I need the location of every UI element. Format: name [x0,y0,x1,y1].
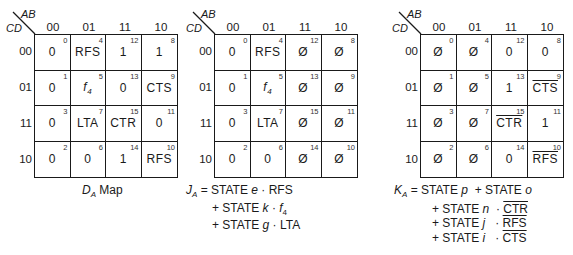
cell-value-negated: CTS [533,81,559,95]
eq-signal-negated: RFS [503,216,527,230]
cell-value: 0 [49,116,56,130]
col-header-11: 11 [287,21,323,33]
cell-index: 15 [130,107,138,116]
col-header-10: 10 [529,21,565,33]
kmap-cell: 10RFS [528,142,564,178]
kmap-corner: AB CD [0,0,40,36]
cell-index: 5 [279,72,283,81]
eq-prefix: + STATE [432,202,479,216]
caption-tail: Map [99,183,122,197]
cell-index: 5 [485,72,489,81]
col-header-01: 01 [71,21,107,33]
eq-dot: · [272,201,276,215]
kmap-cell: 0Ø [421,35,457,71]
kmap-cell: 2Ø [421,142,457,178]
kmap-cell: 11Ø [322,106,358,142]
kmap-cell: 30 [215,106,251,142]
cell-index: 0 [63,36,67,45]
cell-value-negated: RFS [533,152,559,166]
cell-index: 7 [485,107,489,116]
cell-value: Ø [298,45,308,59]
kmap-cell: 30 [35,106,71,142]
col-header-00: 00 [215,21,251,33]
cell-index: 3 [449,107,453,116]
kmap-cell: 13Ø [286,71,322,107]
cell-index: 14 [310,143,318,152]
cell-value: f4 [263,80,272,96]
kmap-ka: AB CD 00 01 11 10 00 01 11 10 0Ø 4Ø 120 … [386,0,573,255]
cell-value: 1 [506,81,513,95]
cell-value: 0 [229,116,236,130]
cell-value: 0 [84,152,91,166]
eq-state: p [461,183,468,197]
cell-index: 2 [243,143,247,152]
eq-state: j [483,216,486,230]
eq-lhs-sub: A [192,190,197,199]
kmap-cell: 121 [106,35,142,71]
col-header-10: 10 [143,21,179,33]
cell-value: f4 [83,80,92,96]
eq-state: i [483,231,486,245]
cell-value-negated: CTR [496,116,522,130]
cell-value: 0 [229,81,236,95]
kmap-cell: 10RFS [142,142,178,178]
cell-value: 0 [229,45,236,59]
kmap-da: AB CD 00 01 11 10 00 01 11 10 00 4RFS 12… [0,0,190,255]
row-header-10: 10 [396,153,418,165]
cell-index: 13 [310,72,318,81]
kmap-grid: 00 4RFS 121 81 10 5f4 130 9CTS 30 7LTA 1… [34,34,178,178]
cell-value: 0 [49,152,56,166]
cell-index: 13 [130,72,138,81]
cell-index: 0 [243,36,247,45]
col-header-00: 00 [421,21,457,33]
row-var-label: CD [186,22,202,34]
eq-lhs: K [394,183,402,197]
cell-index: 3 [63,107,67,116]
cell-index: 4 [485,36,489,45]
row-header-10: 10 [10,153,32,165]
equation-line: KA = STATE p + STATE o [394,183,532,199]
cell-index: 14 [516,143,524,152]
cell-value: 0 [542,45,549,59]
kmap-cell: 1Ø [421,71,457,107]
row-header-11: 11 [10,117,32,129]
cell-index: 8 [557,36,561,45]
row-header-01: 01 [10,81,32,93]
kmap-cell: 00 [35,35,71,71]
cell-index: 13 [516,72,524,81]
eq-signal: LTA [280,218,300,232]
cell-index: 15 [310,107,318,116]
eq-prefix: + STATE [432,216,479,230]
row-header-11: 11 [396,117,418,129]
eq-prefix: + STATE [212,201,259,215]
cell-value: RFS [147,152,173,166]
cell-value: RFS [75,45,101,59]
cell-value: Ø [334,45,344,59]
col-var-label: AB [201,8,216,20]
cell-value: 0 [229,152,236,166]
cell-index: 7 [99,107,103,116]
equation-line: + STATE k · f4 [212,201,287,217]
eq-state: e [251,183,258,197]
eq-signal-sub: 4 [283,208,287,217]
cell-index: 6 [99,143,103,152]
eq-lhs-sub: A [402,190,407,199]
cell-index: 2 [63,143,67,152]
cell-index: 10 [347,143,355,152]
kmap-cell: 4RFS [251,35,287,71]
cell-index: 9 [557,72,561,81]
cell-value: Ø [298,152,308,166]
kmap-cell: 4RFS [71,35,107,71]
col-header-01: 01 [251,21,287,33]
equation-line: + STATE g · LTA [212,218,300,232]
eq-dot: · [273,218,277,232]
cell-index: 12 [130,36,138,45]
eq-signal-negated: CTS [503,231,527,245]
kmap-cell: 5Ø [457,71,493,107]
cell-value: Ø [298,81,308,95]
row-header-11: 11 [190,117,212,129]
equation-line: + STATE j · RFS [432,216,527,230]
kmap-cell: 8Ø [322,35,358,71]
cell-value: 1 [542,116,549,130]
cell-value: LTA [257,116,279,130]
